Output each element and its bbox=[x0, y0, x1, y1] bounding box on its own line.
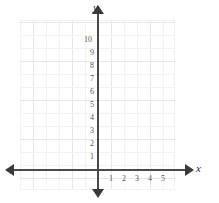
x-tick-label: 4 bbox=[145, 175, 155, 183]
y-tick-label: 10 bbox=[78, 36, 92, 44]
x-axis-right-arrow-icon bbox=[185, 164, 194, 176]
x-tick-label: 3 bbox=[132, 175, 142, 183]
y-axis-line bbox=[97, 12, 99, 194]
x-tick-label: 1 bbox=[106, 175, 116, 183]
y-tick-label: 7 bbox=[80, 75, 94, 83]
x-axis-left-arrow-icon bbox=[5, 164, 14, 176]
x-tick-label: 2 bbox=[119, 175, 129, 183]
y-tick-label: 9 bbox=[80, 49, 94, 57]
y-tick-label: 6 bbox=[80, 88, 94, 96]
y-tick-label: 5 bbox=[80, 101, 94, 109]
y-tick-label: 2 bbox=[80, 140, 94, 148]
x-axis-label: x bbox=[196, 163, 201, 174]
y-tick-label: 4 bbox=[80, 114, 94, 122]
y-tick-label: 1 bbox=[80, 153, 94, 161]
x-tick-label: 5 bbox=[158, 175, 168, 183]
y-tick-label: 8 bbox=[80, 62, 94, 70]
y-axis-label: y bbox=[93, 2, 98, 13]
y-axis-down-arrow-icon bbox=[92, 189, 104, 198]
coordinate-plane-figure: y x 1 2 3 4 5 6 7 8 9 10 1 2 3 4 5 bbox=[0, 0, 219, 203]
y-tick-label: 3 bbox=[80, 127, 94, 135]
x-axis-line bbox=[12, 169, 190, 171]
